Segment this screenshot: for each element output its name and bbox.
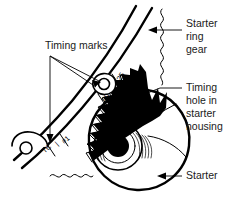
label-starter-ring-gear-line3: gear [186,43,208,55]
scale-label-cylinder: #1 [60,134,71,144]
timing-marks-leader-right-2 [50,56,96,87]
break-line-path-upper [161,9,164,85]
tdc-hole-circle [20,142,32,154]
break-line-path-lower [50,174,93,177]
scale-label-separator: | [54,140,61,147]
technical-diagram: 25 20 TC | #1 [0,0,235,206]
timing-hole-circle [99,79,110,90]
wavy-break-line-icon-lower [50,174,93,177]
label-starter-ring-gear-line2: ring [186,30,204,42]
label-timing-hole-line3: starter [186,107,216,119]
diagram-canvas: 25 20 TC | #1 [0,0,235,206]
label-timing-hole-line1: Timing [186,81,217,93]
timing-marks-leader-right [50,56,99,81]
starter-ring-gear-leader [148,27,182,34]
label-timing-marks: Timing marks [45,39,108,51]
label-starter-ring-gear-line1: Starter [186,17,218,29]
arrow-head-icon-ring-gear [148,27,157,34]
wavy-break-line-icon-upper [161,9,164,85]
label-timing-hole-line2: hole in [186,94,217,106]
label-starter: Starter [186,169,218,181]
label-timing-hole-line4: housing [186,120,223,132]
